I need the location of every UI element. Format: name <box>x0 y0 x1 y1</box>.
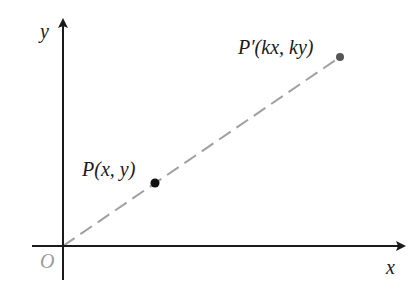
coordinate-diagram: y x O P(x, y) P′(kx, ky) <box>0 0 416 304</box>
point-p-name: P <box>81 158 94 180</box>
point-p-prime-coords: (kx, ky) <box>255 36 314 59</box>
point-p <box>151 179 160 188</box>
svg-text:P′(kx, ky): P′(kx, ky) <box>237 36 314 59</box>
y-axis-label: y <box>38 20 49 43</box>
dilation-line <box>63 57 340 246</box>
point-p-label: P(x, y) <box>81 158 136 181</box>
point-p-prime-name: P′ <box>237 36 255 58</box>
point-p-prime <box>336 53 344 61</box>
x-axis-label: x <box>385 256 395 278</box>
origin-label: O <box>40 250 54 272</box>
svg-text:P(x, y): P(x, y) <box>81 158 136 181</box>
point-p-coords: (x, y) <box>94 158 135 181</box>
point-p-prime-label: P′(kx, ky) <box>237 36 314 59</box>
